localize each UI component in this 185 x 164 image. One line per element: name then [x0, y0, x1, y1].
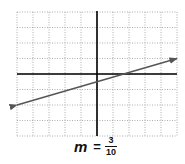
equals-sign: = [93, 139, 101, 154]
fraction-numerator: 3 [108, 136, 113, 145]
fraction-denominator: 10 [106, 148, 116, 157]
slope-fraction: 3 10 [105, 136, 117, 157]
slope-label: m = 3 10 [74, 136, 117, 157]
slope-variable: m [74, 138, 87, 155]
